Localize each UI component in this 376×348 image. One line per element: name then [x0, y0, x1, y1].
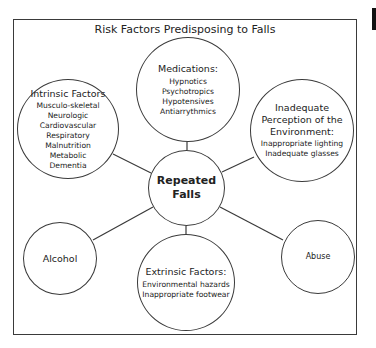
- node-intrinsic-factors: Intrinsic Factors Musculo-skeletal Neuro…: [17, 79, 119, 179]
- intrinsic-item: Dementia: [49, 161, 86, 171]
- intrinsic-item: Respiratory: [46, 131, 90, 141]
- alcohol-label: Alcohol: [43, 253, 78, 265]
- intrinsic-heading: Intrinsic Factors: [31, 88, 106, 100]
- connector-perception: [222, 157, 254, 172]
- node-medications: Medications: Hypnotics Psychotropics Hyp…: [136, 37, 240, 142]
- perception-heading-line: Environment:: [270, 126, 334, 138]
- medications-item: Hypotensives: [162, 97, 213, 107]
- medications-item: Psychotropics: [162, 87, 214, 97]
- extrinsic-item: Environmental hazards: [142, 280, 230, 290]
- intrinsic-item: Metabolic: [50, 151, 87, 161]
- node-extrinsic-factors: Extrinsic Factors: Environmental hazards…: [137, 234, 235, 331]
- node-inadequate-perception: Inadequate Perception of the Environment…: [250, 79, 354, 182]
- medications-item: Hypnotics: [169, 77, 207, 87]
- extrinsic-item: Inappropriate footwear: [142, 290, 229, 300]
- center-label-line: Repeated: [157, 174, 216, 188]
- perception-item: Inadequate glasses: [265, 149, 339, 159]
- intrinsic-item: Neurologic: [48, 111, 89, 121]
- medications-item: Antiarrythmics: [160, 107, 216, 117]
- node-repeated-falls: Repeated Falls: [148, 150, 225, 226]
- medications-heading: Medications:: [158, 63, 218, 75]
- perception-item: Inappropriate lighting: [261, 139, 343, 149]
- intrinsic-item: Cardiovascular: [40, 121, 97, 131]
- connector-abuse: [220, 207, 283, 240]
- intrinsic-item: Malnutrition: [45, 141, 91, 151]
- node-alcohol: Alcohol: [23, 222, 97, 295]
- abuse-label: Abuse: [306, 252, 331, 262]
- connector-intrinsic: [113, 154, 151, 173]
- node-abuse: Abuse: [281, 220, 355, 294]
- perception-heading-line: Perception of the: [261, 114, 342, 126]
- perception-heading-line: Inadequate: [275, 102, 329, 114]
- center-label-line: Falls: [172, 188, 200, 202]
- connector-alcohol: [93, 207, 153, 240]
- extrinsic-heading: Extrinsic Factors:: [146, 266, 227, 278]
- intrinsic-item: Musculo-skeletal: [36, 101, 99, 111]
